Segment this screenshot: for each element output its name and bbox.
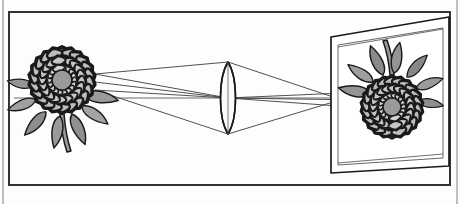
optics-ray-diagram xyxy=(0,0,461,204)
image-flower-center-disc xyxy=(383,98,401,116)
object-flower-center-disc xyxy=(52,70,72,90)
converging-lens xyxy=(221,62,236,134)
optics-figure-root xyxy=(0,0,461,204)
